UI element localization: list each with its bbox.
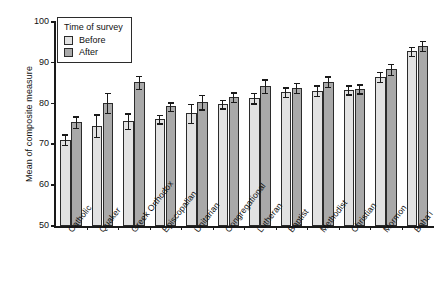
error-bar-cap-lower bbox=[105, 113, 111, 114]
bar-after bbox=[386, 69, 397, 226]
y-tick-label: 60 bbox=[39, 179, 49, 189]
legend-item-before: Before bbox=[64, 35, 123, 45]
error-bar-cap-lower bbox=[325, 87, 331, 88]
error-bar-line bbox=[391, 64, 392, 75]
error-bar-line bbox=[265, 79, 266, 93]
error-bar-cap-upper bbox=[188, 104, 194, 105]
error-bar-cap-upper bbox=[168, 102, 174, 103]
bar-group bbox=[312, 22, 334, 226]
error-bar-cap-lower bbox=[346, 94, 352, 95]
bar-after bbox=[292, 88, 303, 226]
error-bar-cap-upper bbox=[251, 93, 257, 94]
error-bar-line bbox=[191, 104, 192, 123]
error-bar-cap-lower bbox=[357, 93, 363, 94]
error-bar-cap-lower bbox=[251, 103, 257, 104]
bar-after bbox=[229, 97, 240, 226]
bar-after bbox=[355, 89, 366, 226]
error-bar-line bbox=[380, 72, 381, 82]
bar-after bbox=[260, 86, 271, 226]
error-bar-cap-lower bbox=[283, 97, 289, 98]
error-bar-cap-lower bbox=[73, 128, 79, 129]
y-tick-label: 70 bbox=[39, 138, 49, 148]
y-tick-label: 90 bbox=[39, 57, 49, 67]
error-bar-cap-upper bbox=[409, 47, 415, 48]
error-bar-cap-upper bbox=[262, 79, 268, 80]
error-bar-cap-upper bbox=[220, 100, 226, 101]
legend-item-after: After bbox=[64, 47, 123, 57]
legend-items: BeforeAfter bbox=[64, 35, 123, 57]
bar-group bbox=[344, 22, 366, 226]
error-bar-cap-lower bbox=[377, 82, 383, 83]
legend-title: Time of survey bbox=[64, 22, 123, 32]
error-bar-cap-lower bbox=[314, 96, 320, 97]
bar-group bbox=[218, 22, 240, 226]
error-bar-line bbox=[233, 92, 234, 102]
bar-before bbox=[186, 113, 197, 226]
error-bar-line bbox=[317, 85, 318, 96]
bar-after bbox=[323, 82, 334, 226]
y-tick-label: 100 bbox=[34, 16, 49, 26]
error-bar-cap-upper bbox=[357, 84, 363, 85]
error-bar-cap-lower bbox=[157, 123, 163, 124]
bar-after bbox=[418, 46, 429, 226]
error-bar-cap-lower bbox=[94, 137, 100, 138]
error-bar-cap-upper bbox=[314, 85, 320, 86]
error-bar-line bbox=[202, 95, 203, 110]
bar-before bbox=[407, 51, 418, 226]
error-bar-line bbox=[285, 87, 286, 97]
error-bar-cap-lower bbox=[199, 109, 205, 110]
x-axis-category-labels: CatholicQuakerGreek OrthodoxEpiscopalian… bbox=[55, 228, 436, 303]
bar-group bbox=[281, 22, 303, 226]
error-bar-cap-upper bbox=[377, 72, 383, 73]
error-bar-cap-lower bbox=[125, 129, 131, 130]
error-bar-cap-upper bbox=[420, 41, 426, 42]
legend-swatch-before bbox=[64, 36, 73, 45]
error-bar-cap-lower bbox=[388, 75, 394, 76]
error-bar-cap-upper bbox=[136, 76, 142, 77]
bar-before bbox=[92, 126, 103, 226]
error-bar-cap-upper bbox=[94, 114, 100, 115]
bar-before bbox=[123, 121, 134, 226]
error-bar-cap-upper bbox=[283, 87, 289, 88]
error-bar-cap-lower bbox=[188, 123, 194, 124]
legend-label: Before bbox=[79, 35, 106, 45]
error-bar-cap-lower bbox=[294, 93, 300, 94]
error-bar-cap-lower bbox=[220, 108, 226, 109]
error-bar-cap-lower bbox=[231, 102, 237, 103]
bar-before bbox=[312, 91, 323, 226]
bar-before bbox=[155, 119, 166, 226]
error-bar-line bbox=[422, 41, 423, 51]
bar-after bbox=[134, 82, 145, 226]
bar-group bbox=[375, 22, 397, 226]
bar-before bbox=[375, 77, 386, 226]
bar-chart-figure: Mean of composite measure 5060708090100 … bbox=[0, 0, 436, 303]
error-bar-line bbox=[296, 83, 297, 93]
error-bar-cap-lower bbox=[420, 51, 426, 52]
error-bar-cap-upper bbox=[157, 115, 163, 116]
legend-swatch-after bbox=[64, 48, 73, 57]
y-tick-label: 50 bbox=[39, 220, 49, 230]
legend-label: After bbox=[79, 47, 98, 57]
y-axis-title: Mean of composite measure bbox=[24, 44, 34, 204]
error-bar-cap-upper bbox=[199, 95, 205, 96]
bar-before bbox=[60, 140, 71, 226]
error-bar-line bbox=[65, 134, 66, 145]
error-bar-line bbox=[254, 93, 255, 104]
error-bar-cap-upper bbox=[325, 76, 331, 77]
error-bar-line bbox=[139, 76, 140, 89]
legend: Time of survey BeforeAfter bbox=[57, 17, 132, 63]
y-tick-label: 80 bbox=[39, 98, 49, 108]
error-bar-cap-upper bbox=[231, 92, 237, 93]
error-bar-line bbox=[128, 113, 129, 129]
error-bar-cap-lower bbox=[409, 56, 415, 57]
error-bar-cap-upper bbox=[346, 85, 352, 86]
error-bar-cap-upper bbox=[62, 134, 68, 135]
error-bar-line bbox=[328, 76, 329, 87]
bar-group bbox=[407, 22, 429, 226]
error-bar-line bbox=[107, 93, 108, 113]
error-bar-cap-upper bbox=[388, 64, 394, 65]
error-bar-cap-lower bbox=[262, 93, 268, 94]
error-bar-line bbox=[96, 114, 97, 137]
error-bar-cap-lower bbox=[62, 145, 68, 146]
error-bar-cap-upper bbox=[105, 93, 111, 94]
